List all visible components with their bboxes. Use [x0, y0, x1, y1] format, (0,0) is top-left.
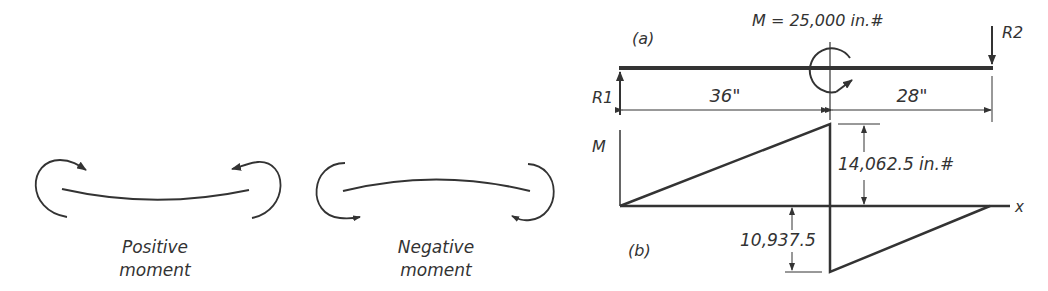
max-positive-label: 14,062.5 in.# [838, 154, 954, 174]
positive-label-line1: Positive [122, 237, 188, 257]
sagging-beam-curve [62, 189, 249, 200]
negative-label-line1: Negative [398, 237, 474, 257]
r1-label: R1 [592, 88, 613, 107]
x-axis-label: x [1014, 198, 1024, 216]
span-right-label: 28" [896, 85, 927, 106]
r2-label: R2 [1002, 23, 1023, 42]
hogging-beam-curve [343, 180, 530, 192]
applied-moment-label: M = 25,000 in.# [752, 11, 884, 30]
positive-moment-sketch: Positive moment [36, 160, 281, 280]
beam-diagram: (a) M = 25,000 in.# R1 R2 36" 28" [592, 11, 1023, 122]
curved-arrow-icon [232, 162, 281, 218]
negative-moment-sketch: Negative moment [317, 163, 554, 280]
curved-arrow-icon [317, 163, 360, 218]
moment-arrow-icon [836, 80, 852, 92]
max-negative-label: 10,937.5 [740, 230, 816, 250]
beam-label: (a) [632, 29, 654, 48]
positive-label-line2: moment [119, 260, 192, 280]
curved-arrow-icon [512, 164, 554, 220]
curved-arrow-icon [36, 160, 86, 217]
moment-diagram-label: (b) [628, 241, 651, 260]
y-axis-label: M [592, 137, 606, 156]
negative-label-line2: moment [400, 260, 473, 280]
span-left-label: 36" [709, 85, 740, 106]
diagram-canvas: Positive moment Negative moment (a) M = … [0, 0, 1048, 291]
moment-diagram: M x 14,062.5 in.# 10,937.5 (b) [592, 124, 1024, 272]
